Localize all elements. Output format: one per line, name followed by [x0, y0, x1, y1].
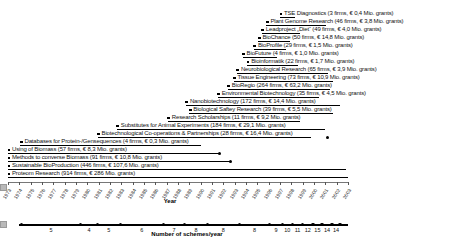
schemes-boundary-dot	[311, 223, 314, 226]
scheme-label: Biotechnological Co-operations & Partner…	[102, 130, 293, 137]
scheme-label: BioProfile (29 firms, € 1,5 Mio. grants)	[258, 42, 353, 49]
scheme-label: Databases for Protein-/Gensequences (4 f…	[24, 138, 188, 145]
year-tick	[99, 182, 100, 185]
scheme-start-marker	[258, 37, 261, 40]
scheme-label: Neurobiological Research (65 firms, € 3,…	[241, 66, 377, 73]
year-tick	[212, 182, 213, 185]
scheme-start-marker	[97, 133, 100, 136]
scheme-start-marker	[247, 61, 250, 64]
year-tick	[303, 182, 304, 185]
schemes-boundary-dot	[20, 223, 23, 226]
year-tick	[87, 182, 88, 185]
scheme-start-marker	[261, 29, 264, 32]
year-tick	[53, 182, 54, 185]
schemes-boundary-dot	[301, 223, 304, 226]
schemes-boundary-dot	[330, 223, 333, 226]
schemes-count-value: 9	[270, 227, 282, 233]
year-tick	[76, 182, 77, 185]
year-tick	[269, 182, 270, 185]
scheme-label: Nanobiotechnology (172 firms, € 14,4 Mio…	[190, 98, 316, 105]
year-tick	[257, 182, 258, 185]
year-tick	[8, 182, 9, 185]
scheme-label: TSE Diagnostics (3 firms, € 0,4 Mio. gra…	[284, 10, 393, 17]
scheme-start-marker	[236, 69, 239, 72]
scheme-label: BioFuture (4 firms, € 1,0 Mio. grants)	[247, 50, 339, 57]
schemes-boundary-dot	[79, 223, 82, 226]
scheme-start-marker	[266, 21, 269, 24]
scheme-start-marker	[242, 53, 245, 56]
year-tick	[348, 182, 349, 185]
scheme-label: Bioinformatik (22 firms, € 1,7 Mio. gran…	[251, 58, 354, 65]
scheme-end-dot	[326, 136, 329, 139]
schemes-count-value: 5	[45, 227, 57, 233]
year-tick	[314, 182, 315, 185]
schemes-boundary-dot	[96, 223, 99, 226]
year-tick	[155, 182, 156, 185]
schemes-boundary-dot	[162, 223, 165, 226]
scheme-duration-bar	[8, 177, 348, 178]
year-tick	[201, 182, 202, 185]
scheme-label: BioRegio (264 firms, € 63,2 Mio. grants)	[232, 82, 332, 89]
schemes-boundary-dot	[281, 223, 284, 226]
scheme-start-marker	[8, 149, 11, 152]
scheme-start-marker	[280, 13, 283, 16]
scheme-label: BioChance (50 firms, € 14,8 Mio. grants)	[262, 34, 364, 41]
scheme-start-marker	[253, 45, 256, 48]
scheme-start-marker	[185, 101, 188, 104]
scheme-end-dot	[218, 152, 221, 155]
scheme-label: Sustainable BioProduction (446 firms, € …	[12, 162, 159, 169]
scheme-start-marker	[167, 117, 170, 120]
year-tick	[19, 182, 20, 185]
scheme-label: Using of Biomass (57 firms, € 8,3 Mio. g…	[12, 146, 127, 153]
scheme-label: Leadproject „Diet“ (49 firms, € 4,0 Mio.…	[266, 26, 382, 33]
year-tick	[133, 182, 134, 185]
schemes-count-value: 4	[83, 227, 95, 233]
scheme-label: Research Scholarships (11 firms, € 9,2 M…	[172, 114, 301, 121]
year-tick	[144, 182, 145, 185]
scheme-label: Plant Genome Research (46 firms, € 3,8 M…	[270, 18, 403, 25]
year-tick	[325, 182, 326, 185]
year-tick	[178, 182, 179, 185]
schemes-boundary-dot	[206, 223, 209, 226]
scheme-start-marker	[227, 85, 230, 88]
resize-handle-top	[0, 184, 7, 191]
scheme-end-dot	[229, 160, 232, 163]
schemes-count-value: 14	[330, 227, 342, 233]
schemes-count-value: 5	[103, 227, 115, 233]
scheme-label: Substitutes for Animal Experiments (184 …	[121, 122, 286, 129]
schemes-boundary-dot	[183, 223, 186, 226]
funding-schemes-timeline-figure: TSE Diagnostics (3 firms, € 0,4 Mio. gra…	[0, 0, 465, 252]
schemes-boundary-dot	[320, 223, 323, 226]
schemes-axis-title: Number of schemes/year	[117, 231, 257, 237]
year-tick	[223, 182, 224, 185]
year-tick	[235, 182, 236, 185]
year-tick	[31, 182, 32, 185]
scheme-start-marker	[8, 173, 11, 176]
schemes-boundary-dot	[119, 223, 122, 226]
scheme-label: Methods to converse Biomass (91 firms, €…	[12, 154, 162, 161]
year-tick	[42, 182, 43, 185]
year-tick	[337, 182, 338, 185]
scheme-start-marker	[20, 141, 23, 144]
year-tick	[65, 182, 66, 185]
year-tick	[246, 182, 247, 185]
scheme-start-marker	[8, 157, 11, 160]
scheme-start-marker	[189, 109, 192, 112]
year-axis-title: Year	[148, 198, 192, 204]
year-tick	[110, 182, 111, 185]
year-tick	[291, 182, 292, 185]
scheme-label: Environmental Biotechnology (35 firms, €…	[222, 90, 366, 97]
year-tick	[121, 182, 122, 185]
scheme-start-marker	[116, 125, 119, 128]
year-tick	[189, 182, 190, 185]
scheme-label: Biological Saftey Research (39 firms, € …	[193, 106, 331, 113]
resize-handle-bottom	[0, 221, 7, 228]
schemes-boundary-dot	[238, 223, 241, 226]
schemes-boundary-dot	[291, 223, 294, 226]
schemes-boundary-dot	[268, 223, 271, 226]
scheme-start-marker	[233, 77, 236, 80]
scheme-start-marker	[8, 165, 11, 168]
scheme-start-marker	[217, 93, 220, 96]
scheme-label: Proteom Research (914 firms, € 286 Mio. …	[12, 170, 135, 177]
schemes-boundary-dot	[338, 223, 341, 226]
